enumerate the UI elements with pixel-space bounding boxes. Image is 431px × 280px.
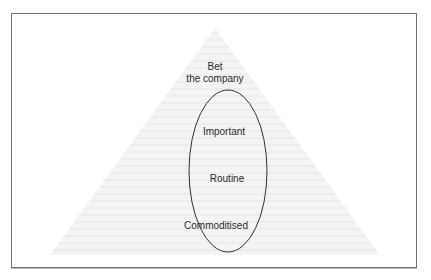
- level-label-commoditised: Commoditised: [184, 220, 248, 232]
- level-label-bet: Bet the company: [186, 61, 243, 85]
- level-label-bet-line1: Bet: [186, 61, 243, 73]
- level-label-routine: Routine: [210, 173, 244, 185]
- pyramid-diagram: [0, 0, 431, 280]
- level-label-bet-line2: the company: [186, 73, 243, 85]
- level-label-important: Important: [203, 126, 245, 138]
